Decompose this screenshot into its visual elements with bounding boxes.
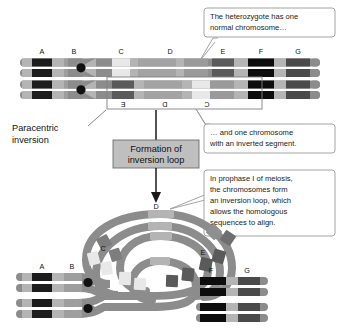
top-label-G: G bbox=[295, 47, 301, 56]
loop-centromere-top bbox=[83, 278, 92, 287]
process-box-line-2: inversion loop bbox=[128, 155, 185, 165]
process-box-line-1: Formation of bbox=[130, 144, 182, 154]
inverted-chromatid-2 bbox=[20, 91, 320, 99]
loop-label-G: G bbox=[244, 266, 250, 275]
callout-normal-line-1: The heterozygote has one bbox=[210, 12, 298, 21]
loop-label-C: C bbox=[100, 244, 105, 253]
callout-prophase-line-3: an inversion loop, which bbox=[210, 196, 291, 205]
normal-chromatid-1 bbox=[20, 59, 320, 67]
inversion-diagram-svg: A B C D E F G bbox=[0, 0, 340, 333]
top-label-D: D bbox=[167, 47, 172, 56]
figure-canvas: A B C D E F G bbox=[0, 0, 340, 333]
centromere-inverted bbox=[76, 85, 85, 94]
inverted-chromatid-1 bbox=[20, 81, 320, 89]
loop-label-D: D bbox=[153, 202, 158, 211]
callout-prophase-line-1: In prophase I of meiosis, bbox=[210, 174, 293, 183]
callout-inverted-line-2: with an inverted segment. bbox=[209, 139, 297, 148]
inverted-label-C: C bbox=[204, 100, 209, 109]
callout-prophase-line-5: sequences to align. bbox=[210, 218, 275, 227]
top-label-B: B bbox=[72, 47, 77, 56]
top-label-E: E bbox=[221, 47, 226, 56]
callout-prophase-line-2: the chromosomes form bbox=[210, 185, 288, 194]
paracentric-label-line-1: Paracentric bbox=[12, 123, 59, 133]
top-label-C: C bbox=[118, 47, 123, 56]
loop-label-B: B bbox=[70, 262, 75, 271]
centromere-normal bbox=[76, 63, 85, 72]
normal-chromatid-2 bbox=[20, 69, 320, 77]
inverted-label-D: D bbox=[162, 100, 167, 109]
inverted-label-E: E bbox=[120, 100, 125, 109]
loop-label-A: A bbox=[40, 262, 45, 271]
loop-label-E: E bbox=[201, 248, 206, 257]
loop-centromere-bottom bbox=[83, 304, 92, 313]
callout-prophase-line-4: allows the homologous bbox=[210, 207, 287, 216]
paracentric-label-line-2: inversion bbox=[12, 135, 49, 145]
loop-label-F: F bbox=[209, 266, 214, 275]
top-label-A: A bbox=[40, 47, 45, 56]
callout-inverted-line-1: … and one chromosome bbox=[210, 128, 293, 137]
callout-normal-line-2: normal chromosome… bbox=[210, 23, 287, 32]
top-label-F: F bbox=[259, 47, 264, 56]
